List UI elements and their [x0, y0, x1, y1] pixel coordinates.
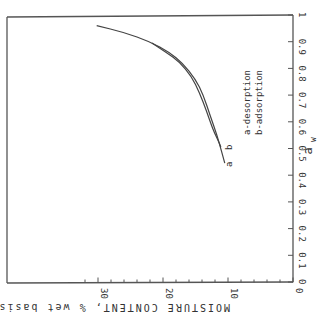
y-tick-label: 0.3 [297, 199, 307, 215]
y-tick-label: 0.8 [297, 65, 307, 81]
svg-text:w: w [309, 135, 318, 142]
x-axis-label: MOISTURE CONTENT, % wet basis [0, 302, 230, 313]
y-tick-label: 0.7 [297, 92, 307, 108]
x-tick-label: 0 [294, 288, 304, 293]
y-tick-label: 0.1 [297, 252, 307, 268]
x-tick-label: 20 [164, 288, 174, 299]
y-tick-label: 0 [297, 279, 307, 284]
y-tick-label: 1 [297, 12, 307, 17]
x-tick-label: 30 [99, 288, 109, 299]
x-axis-ticks: 0102030 [85, 278, 304, 299]
legend: a-desorption b-adsorption [242, 70, 264, 135]
x-tick-label: 10 [229, 288, 239, 299]
legend-a: a-desorption [242, 70, 252, 135]
y-tick-label: 0.9 [297, 39, 307, 55]
sorption-isotherm-chart: 0102030 00.10.20.30.40.50.60.70.80.91 MO… [0, 0, 326, 319]
curve-a-label: a [224, 162, 234, 167]
curves [97, 26, 225, 164]
y-tick-label: 0.6 [297, 119, 307, 135]
svg-text:a: a [301, 145, 315, 154]
y-tick-label: 0.2 [297, 226, 307, 242]
desorption-curve [97, 26, 225, 164]
curve-b-label: b [224, 145, 234, 150]
legend-b: b-adsorption [254, 70, 264, 135]
top-frame-line [7, 15, 293, 17]
y-tick-label: 0.4 [297, 172, 307, 188]
adsorption-curve [152, 43, 221, 147]
